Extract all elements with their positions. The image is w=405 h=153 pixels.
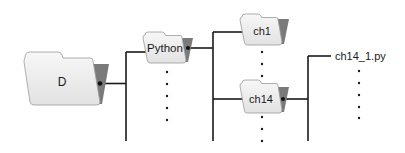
folder-label-python: Python bbox=[147, 42, 183, 54]
folder-label-ch14: ch14 bbox=[249, 93, 273, 105]
folder-ch1[interactable]: ch1 bbox=[240, 14, 289, 45]
connector-dot bbox=[281, 97, 285, 101]
connector-dot bbox=[186, 46, 190, 50]
directory-tree-diagram: D Python ch1 ch14 ch14_1.py bbox=[0, 0, 405, 153]
ellipsis-python-children bbox=[166, 71, 168, 121]
folder-python[interactable]: Python bbox=[143, 32, 193, 63]
folder-d[interactable]: D bbox=[24, 52, 109, 105]
ellipsis-ch1-siblings bbox=[261, 51, 263, 77]
tree-connectors bbox=[100, 32, 331, 141]
ellipsis-ch14-files bbox=[358, 70, 360, 119]
connector-dot bbox=[98, 81, 103, 86]
ellipsis-ch14-siblings bbox=[261, 116, 263, 142]
folder-icon bbox=[24, 52, 109, 105]
file-label-ch14_1: ch14_1.py bbox=[335, 50, 386, 62]
folder-ch14[interactable]: ch14 bbox=[240, 80, 289, 113]
folder-label-ch1: ch1 bbox=[253, 25, 271, 37]
folder-label-d: D bbox=[58, 75, 67, 89]
file-ch14_1-py[interactable]: ch14_1.py bbox=[335, 50, 386, 62]
